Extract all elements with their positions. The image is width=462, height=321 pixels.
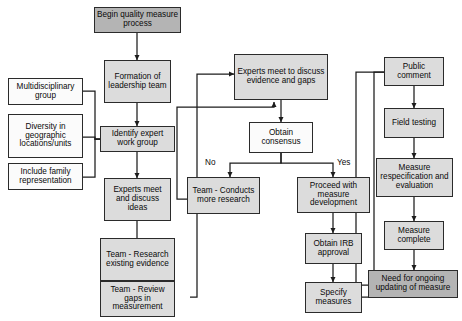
node-experts-meet-to-discuss-evidence-and-gaps[interactable]: Experts meet to discuss evidence and gap…	[234, 54, 328, 100]
edge-label-no: No	[205, 158, 215, 167]
node-identify-expert-work-group[interactable]: Identify expert work group	[100, 126, 175, 152]
node-label: Measure respecification and evaluation	[379, 164, 450, 191]
node-obtain-irb-approval[interactable]: Obtain IRB approval	[305, 233, 362, 264]
node-experts-meet-and-discuss-ideas[interactable]: Experts meet and discuss ideas	[104, 178, 171, 221]
node-label: Multidisciplinary group	[11, 83, 80, 101]
node-label: Experts meet and discuss ideas	[107, 186, 168, 213]
node-label: Experts meet to discuss evidence and gap…	[237, 68, 325, 86]
node-multidisciplinary-group[interactable]: Multidisciplinary group	[8, 78, 83, 105]
node-formation-of-leadership-team[interactable]: Formation of leadership team	[104, 60, 171, 103]
node-label: Team - Research existing evidence	[103, 251, 172, 269]
node-begin-quality-measure-process[interactable]: Begin quality measure process	[94, 7, 181, 33]
node-label: Team - Review gaps in measurement	[103, 286, 172, 313]
node-label: Begin quality measure process	[97, 11, 178, 29]
node-label: Field testing	[392, 119, 436, 128]
node-label: Diversity in geographic locations/units	[11, 123, 80, 150]
node-label: Proceed with measure development	[300, 182, 367, 209]
node-specify-measures[interactable]: Specify measures	[305, 282, 362, 313]
edge-consensus-no	[230, 153, 281, 177]
node-label: Obtain consensus	[252, 129, 310, 147]
node-measure-complete[interactable]: Measure complete	[384, 221, 444, 250]
node-team-review-gaps-in-measurement[interactable]: Team - Review gaps in measurement	[100, 281, 175, 317]
node-team-research-existing-evidence[interactable]: Team - Research existing evidence	[100, 238, 175, 281]
node-label: Obtain IRB approval	[308, 240, 359, 258]
node-label: Identify expert work group	[103, 130, 172, 148]
node-need-for-ongoing-updating-of-measure[interactable]: Need for ongoing updating of measure	[368, 270, 458, 298]
node-public-comment[interactable]: Public comment	[384, 57, 444, 86]
node-obtain-consensus[interactable]: Obtain consensus	[249, 122, 313, 153]
node-label: Team - Conducts more research	[190, 187, 257, 205]
node-include-family-representation[interactable]: Include family representation	[8, 163, 83, 190]
node-diversity-in-geographic-locations-units[interactable]: Diversity in geographic locations/units	[8, 114, 83, 158]
flowchart-diagram: Begin quality measure process Formation …	[0, 0, 462, 321]
node-field-testing[interactable]: Field testing	[384, 108, 444, 138]
node-team-conducts-more-research[interactable]: Team - Conducts more research	[187, 177, 260, 214]
edge-consensus-yes	[281, 153, 333, 177]
node-label: Include family representation	[11, 168, 80, 186]
node-measure-respecification-and-evaluation[interactable]: Measure respecification and evaluation	[376, 158, 453, 197]
node-label: Measure complete	[387, 227, 441, 245]
node-label: Specify measures	[308, 289, 359, 307]
node-label: Public comment	[387, 63, 441, 81]
node-label: Need for ongoing updating of measure	[371, 275, 455, 293]
node-label: Formation of leadership team	[107, 73, 168, 91]
edge-label-yes: Yes	[337, 158, 350, 167]
node-proceed-with-measure-development[interactable]: Proceed with measure development	[297, 177, 370, 213]
